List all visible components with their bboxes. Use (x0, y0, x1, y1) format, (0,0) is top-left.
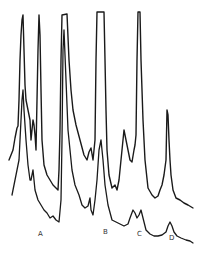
peak-label-b: B (103, 228, 108, 236)
chromatogram-plot (0, 0, 203, 255)
upper-trace-line (9, 12, 193, 208)
peak-label-c: C (137, 230, 142, 238)
peak-label-a: A (38, 230, 43, 238)
peak-label-d: D (169, 234, 174, 242)
